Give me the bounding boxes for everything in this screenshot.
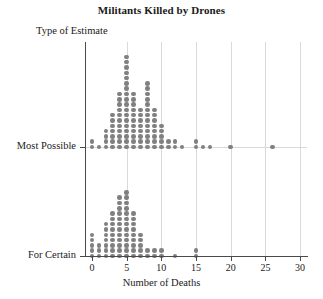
data-dot: [117, 139, 122, 144]
data-dot: [124, 108, 129, 113]
data-dot: [145, 129, 150, 134]
data-dot: [110, 113, 115, 118]
data-dot: [124, 71, 129, 76]
data-dot: [138, 248, 143, 253]
data-dot: [124, 129, 129, 134]
data-dot: [152, 134, 157, 139]
data-dot: [104, 243, 109, 248]
x-tick-label: 15: [183, 262, 209, 273]
data-dot: [117, 238, 122, 243]
data-dot: [194, 248, 199, 253]
data-dot: [124, 139, 129, 144]
data-dot: [117, 145, 122, 150]
data-dot: [138, 238, 143, 243]
data-dot: [131, 102, 136, 107]
data-dot: [104, 145, 109, 150]
data-dot: [124, 92, 129, 97]
data-dot: [159, 145, 164, 150]
data-dot: [131, 92, 136, 97]
data-dot: [270, 145, 275, 150]
data-dot: [117, 102, 122, 107]
data-dot: [124, 227, 129, 232]
data-dot: [90, 238, 95, 243]
data-dot: [145, 124, 150, 129]
data-dot: [152, 145, 157, 150]
y-tick-label-text: Most Possible: [17, 140, 76, 151]
data-dot: [124, 55, 129, 60]
data-dot: [110, 243, 115, 248]
data-dot: [124, 113, 129, 118]
data-dot: [124, 206, 129, 211]
data-dot: [104, 139, 109, 144]
data-dot: [110, 211, 115, 216]
data-dot: [166, 139, 171, 144]
data-dot: [124, 134, 129, 139]
x-tick: [265, 256, 266, 261]
data-dot: [110, 118, 115, 123]
data-dot: [117, 233, 122, 238]
data-dot: [131, 139, 136, 144]
data-dot: [117, 92, 122, 97]
data-dot: [124, 217, 129, 222]
data-dot: [131, 134, 136, 139]
data-dot: [194, 139, 199, 144]
data-dot: [145, 118, 150, 123]
data-dot: [138, 129, 143, 134]
data-dot: [110, 238, 115, 243]
data-dot: [131, 217, 136, 222]
x-tick-label: 10: [148, 262, 174, 273]
data-dot: [124, 243, 129, 248]
dot-plot-chart: Militants Killed by Drones Type of Estim…: [0, 0, 323, 299]
data-dot: [228, 145, 233, 150]
data-dot: [138, 134, 143, 139]
data-dot: [131, 238, 136, 243]
y-tick-label-text: For Certain: [28, 249, 76, 260]
data-dot: [131, 113, 136, 118]
data-dot: [104, 134, 109, 139]
data-dot: [104, 222, 109, 227]
data-dot: [124, 145, 129, 150]
data-dot: [173, 139, 178, 144]
x-tick-label: 25: [252, 262, 278, 273]
data-dot: [124, 118, 129, 123]
data-dot: [110, 124, 115, 129]
data-dot: [131, 145, 136, 150]
data-dot: [208, 145, 213, 150]
data-dot: [159, 139, 164, 144]
data-dot: [131, 97, 136, 102]
y-axis-label: Type of Estimate: [36, 25, 108, 36]
data-dot: [138, 108, 143, 113]
data-dot: [124, 81, 129, 86]
data-dot: [131, 243, 136, 248]
data-dot: [131, 233, 136, 238]
data-dot: [131, 248, 136, 253]
data-dot: [117, 97, 122, 102]
x-axis-label: Number of Deaths: [0, 277, 323, 288]
gridline: [265, 42, 266, 256]
data-dot: [152, 248, 157, 253]
data-dot: [138, 118, 143, 123]
data-dot: [152, 113, 157, 118]
data-dot: [131, 124, 136, 129]
data-dot: [110, 145, 115, 150]
data-dot: [124, 195, 129, 200]
data-dot: [145, 97, 150, 102]
data-dot: [117, 201, 122, 206]
data-dot: [117, 129, 122, 134]
data-dot: [110, 217, 115, 222]
data-dot: [180, 145, 185, 150]
data-dot: [110, 134, 115, 139]
data-dot: [90, 233, 95, 238]
data-dot: [173, 145, 178, 150]
data-dot: [117, 248, 122, 253]
data-dot: [159, 129, 164, 134]
data-dot: [110, 139, 115, 144]
gridline: [300, 42, 301, 256]
data-dot: [124, 201, 129, 206]
data-dot: [138, 243, 143, 248]
data-dot: [104, 248, 109, 253]
data-dot: [124, 211, 129, 216]
data-dot: [90, 243, 95, 248]
data-dot: [97, 248, 102, 253]
x-tick-label: 20: [218, 262, 244, 273]
